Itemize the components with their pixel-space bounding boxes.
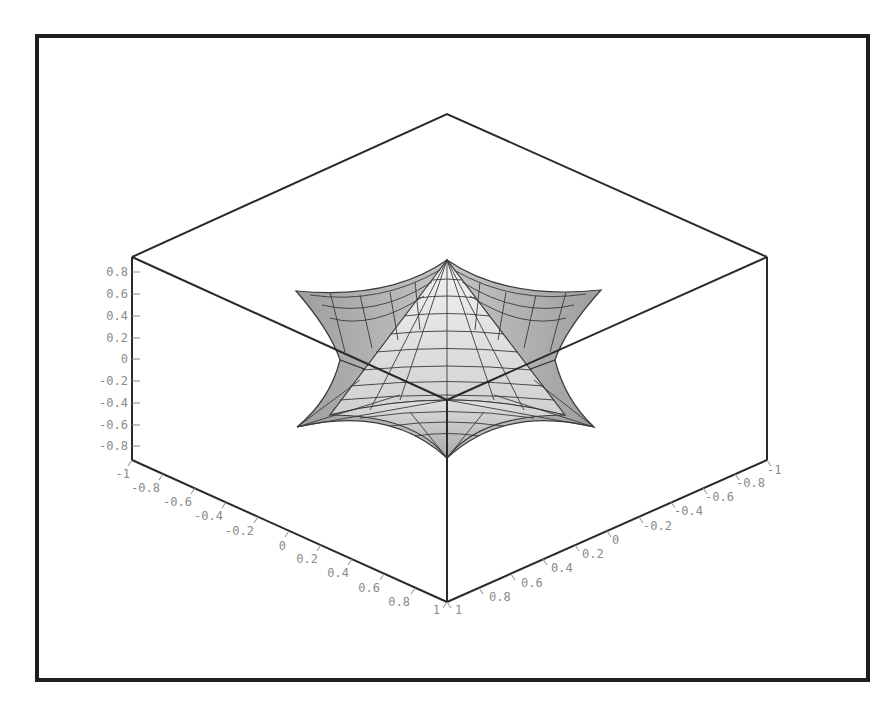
y-tick-label: -0.8 bbox=[736, 476, 765, 490]
y-tick-label: -0.4 bbox=[674, 504, 703, 518]
x-tick-label: 0.8 bbox=[388, 595, 410, 609]
x-tick-label: -0.2 bbox=[225, 524, 254, 538]
x-tick-label: 0.2 bbox=[296, 552, 318, 566]
z-tick-label: -0.6 bbox=[99, 418, 128, 432]
x-axis: -1 -0.8 -0.6 -0.4 -0.2 0 0.2 0.4 0.6 0.8… bbox=[116, 460, 447, 617]
x-tick-label: 0.6 bbox=[358, 581, 380, 595]
z-tick-label: -0.8 bbox=[99, 439, 128, 453]
y-tick-label: 0.4 bbox=[551, 561, 573, 575]
x-tick-label: 1 bbox=[433, 603, 440, 617]
x-tick-label: -0.6 bbox=[163, 495, 192, 509]
y-tick-label: 0.6 bbox=[521, 576, 543, 590]
y-tick-label: -0.6 bbox=[705, 490, 734, 504]
x-tick-label: -0.8 bbox=[131, 481, 160, 495]
y-tick-label: -1 bbox=[767, 463, 781, 477]
z-tick-label: 0.4 bbox=[106, 309, 128, 323]
x-tick-label: -1 bbox=[116, 467, 130, 481]
y-tick-label: -0.2 bbox=[643, 519, 672, 533]
surface-plot: 0.8 0.6 0.4 0.2 0 -0.2 -0.4 -0.6 -0.8 - bbox=[0, 0, 893, 702]
y-tick-label: 0.8 bbox=[489, 590, 511, 604]
z-tick-label: 0 bbox=[121, 352, 128, 366]
y-tick-label: 1 bbox=[455, 603, 462, 617]
z-axis: 0.8 0.6 0.4 0.2 0 -0.2 -0.4 -0.6 -0.8 bbox=[99, 265, 140, 453]
x-tick-label: 0.4 bbox=[327, 566, 349, 580]
z-tick-label: 0.8 bbox=[106, 265, 128, 279]
z-tick-label: -0.4 bbox=[99, 396, 128, 410]
z-tick-label: 0.2 bbox=[106, 331, 128, 345]
y-tick-label: 0.2 bbox=[582, 547, 604, 561]
x-tick-label: -0.4 bbox=[194, 509, 223, 523]
y-tick-label: 0 bbox=[612, 533, 619, 547]
y-axis: 1 0.8 0.6 0.4 0.2 0 -0.2 -0.4 -0.6 -0.8 … bbox=[447, 460, 781, 617]
z-tick-label: -0.2 bbox=[99, 374, 128, 388]
z-tick-label: 0.6 bbox=[106, 287, 128, 301]
x-tick-label: 0 bbox=[279, 539, 286, 553]
star-surface bbox=[296, 260, 601, 458]
